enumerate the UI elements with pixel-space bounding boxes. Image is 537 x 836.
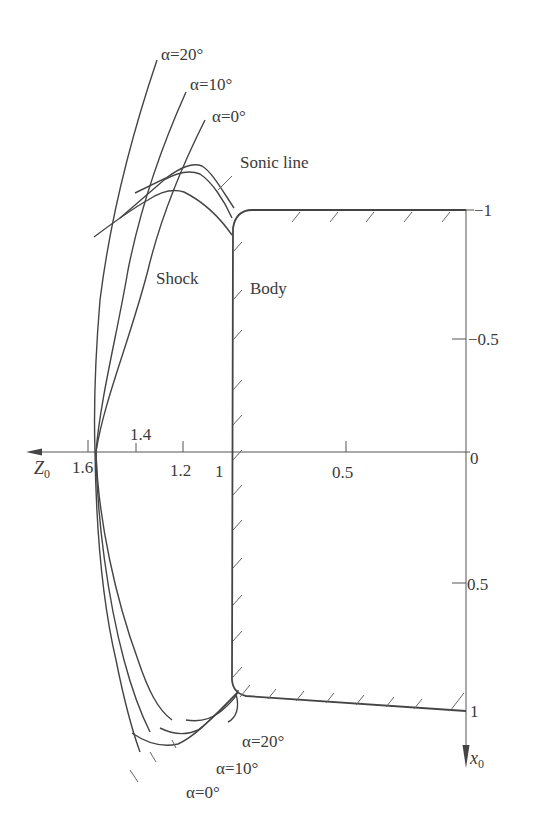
z-axis-title: Z0	[34, 458, 50, 481]
x-axis-title: x0	[469, 748, 484, 771]
z-axis-labels: Z0 1.6 1.4 1.2 1 0.5 0	[34, 425, 479, 482]
shock-curve-alpha-20	[95, 60, 157, 752]
shock-curve-alpha-10	[96, 92, 186, 732]
shock-shape-diagram: α=20° α=10° α=0° Sonic line Shock Body α…	[0, 0, 537, 836]
z-tick-1.6: 1.6	[72, 458, 93, 477]
horizontal-axis	[26, 440, 470, 456]
sonic-line-bottom-alpha-10	[160, 692, 238, 734]
sonic-line-alpha-20	[135, 165, 234, 208]
shock-curve-alpha-0	[96, 120, 205, 720]
label-alpha-0-top: α=0°	[212, 107, 246, 126]
x-axis-arrow-icon	[463, 745, 470, 768]
label-alpha-0-bottom: α=0°	[186, 783, 220, 802]
z-tick-1.2: 1.2	[170, 461, 191, 480]
x-tick-neg1: −1	[474, 201, 492, 220]
sonic-lines-bottom	[132, 690, 238, 745]
label-body: Body	[250, 279, 287, 298]
z-tick-0.5: 0.5	[332, 463, 353, 482]
sonic-line-bottom-alpha-0	[132, 694, 236, 745]
label-sonic-line: Sonic line	[240, 153, 308, 172]
label-alpha-10-bottom: α=10°	[216, 759, 258, 778]
label-alpha-10-top: α=10°	[190, 75, 232, 94]
shock-curves	[95, 60, 205, 752]
sonic-lines-top	[94, 165, 234, 237]
sonic-line-bottom-alpha-20	[186, 690, 238, 721]
label-alpha-20-bottom: α=20°	[242, 732, 284, 751]
x-tick-1: 1	[470, 702, 479, 721]
z-tick-1: 1	[215, 462, 224, 481]
top-alpha-labels: α=20° α=10° α=0°	[161, 45, 246, 126]
label-alpha-20-top: α=20°	[161, 45, 203, 64]
x-tick-0.5: 0.5	[467, 575, 488, 594]
z-tick-1.4: 1.4	[130, 425, 152, 444]
vertical-axis	[452, 210, 474, 768]
label-shock: Shock	[156, 269, 199, 288]
z-tick-0: 0	[470, 449, 479, 468]
x-tick-neg0.5: −0.5	[468, 330, 499, 349]
x-axis-labels: −1 −0.5 0.5 1 x0	[467, 201, 499, 771]
bottom-alpha-labels: α=20° α=10° α=0°	[186, 732, 284, 802]
z-axis-arrow-icon	[26, 449, 42, 456]
